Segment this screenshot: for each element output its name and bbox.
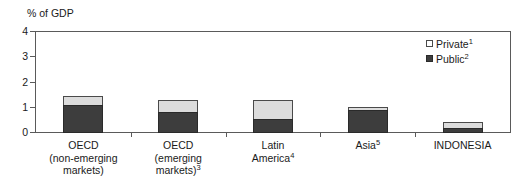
legend-swatch-public-icon	[426, 55, 433, 62]
bar-segment-public	[348, 110, 388, 133]
bar-stack	[348, 107, 388, 134]
x-tick-mark	[320, 133, 321, 137]
x-category-label-line: INDONESIA	[388, 139, 525, 152]
bar-stack	[158, 100, 198, 133]
y-tick-label: 1	[0, 101, 28, 113]
y-axis-tick-labels: 43210	[0, 24, 28, 140]
legend-swatch-private-icon	[426, 40, 433, 47]
x-axis-tick-marks	[36, 133, 510, 138]
x-tick-mark	[415, 133, 416, 137]
legend-item-private: Private1	[426, 36, 506, 51]
x-category-label-line: markets)3	[103, 164, 253, 177]
bar-segment-public	[63, 105, 103, 133]
gdp-stacked-bar-chart: % of GDP 43210 OECD(non-emergingmarkets)…	[0, 0, 525, 184]
bar-stack	[253, 100, 293, 133]
bar-stack	[63, 96, 103, 133]
y-tick-mark	[30, 31, 35, 32]
footnote-marker: 5	[376, 138, 380, 147]
x-tick-mark	[131, 133, 132, 137]
y-tick-label: 4	[0, 25, 28, 37]
bar-segment-public	[158, 112, 198, 133]
footnote-marker: 1	[469, 36, 473, 45]
chart-legend: Private1Public2	[426, 36, 506, 66]
legend-label: Public2	[436, 53, 469, 65]
x-axis-category-labels: OECD(non-emergingmarkets)OECD(emergingma…	[36, 139, 510, 184]
bar-segment-private	[63, 96, 103, 105]
y-tick-mark	[30, 107, 35, 108]
bar-segment-private	[253, 100, 293, 119]
y-tick-label: 2	[0, 76, 28, 88]
y-tick-mark	[30, 132, 35, 133]
legend-item-public: Public2	[426, 51, 506, 66]
y-tick-mark	[30, 56, 35, 57]
footnote-marker: 2	[465, 51, 469, 60]
x-category-label-line: America4	[198, 152, 348, 165]
y-tick-label: 0	[0, 126, 28, 138]
y-tick-label: 3	[0, 50, 28, 62]
x-category-label-indonesia: INDONESIA	[388, 139, 525, 152]
y-tick-mark	[30, 82, 35, 83]
bar-segment-private	[158, 100, 198, 111]
x-tick-mark	[226, 133, 227, 137]
legend-label: Private1	[436, 38, 473, 50]
y-axis-unit-title: % of GDP	[27, 7, 74, 19]
bar-stack	[443, 122, 483, 133]
bar-segment-public	[253, 119, 293, 133]
